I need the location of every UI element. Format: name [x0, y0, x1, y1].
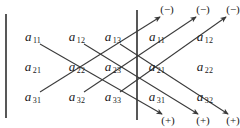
matrix-entry-32: a32 [69, 90, 85, 105]
entry-subscript: 33 [111, 97, 121, 106]
repeated-entry-21: a21 [149, 60, 165, 75]
negative-sign-1: (−) [160, 4, 174, 15]
entry-subscript: 13 [111, 37, 121, 46]
entry-subscript: 12 [203, 37, 213, 46]
entry-subscript: 11 [155, 37, 165, 46]
matrix-entry-22: a22 [69, 60, 85, 75]
matrix-entry-23: a23 [105, 60, 121, 75]
entry-subscript: 12 [75, 37, 85, 46]
matrix-entry-13: a13 [105, 30, 121, 45]
matrix-entry-31: a31 [25, 90, 41, 105]
entry-symbol: a [25, 89, 32, 104]
entry-subscript: 22 [203, 67, 213, 76]
negative-diagonal-lines [40, 17, 226, 92]
entry-symbol: a [69, 59, 76, 74]
entry-symbol: a [105, 59, 112, 74]
entry-subscript: 32 [75, 97, 85, 106]
entry-symbol: a [69, 89, 76, 104]
entry-subscript: 21 [31, 67, 41, 76]
entry-symbol: a [197, 29, 204, 44]
entry-symbol: a [105, 29, 112, 44]
entry-subscript: 11 [31, 37, 41, 46]
entry-symbol: a [105, 89, 112, 104]
matrix-entry-33: a33 [105, 90, 121, 105]
entry-subscript: 21 [155, 67, 165, 76]
entry-symbol: a [69, 29, 76, 44]
matrix-entry-21: a21 [25, 60, 41, 75]
repeated-entry-11: a11 [149, 30, 165, 45]
repeated-entry-32: a32 [197, 90, 213, 105]
repeated-entry-22: a22 [197, 60, 213, 75]
negative-sign-3: (−) [226, 4, 240, 15]
negative-sign-2: (−) [196, 4, 210, 15]
entry-subscript: 22 [75, 67, 85, 76]
entry-symbol: a [197, 89, 204, 104]
matrix-entry-11: a11 [25, 30, 41, 45]
entry-symbol: a [149, 59, 156, 74]
entry-subscript: 31 [31, 97, 41, 106]
repeated-entry-12: a12 [197, 30, 213, 45]
entry-symbol: a [25, 59, 32, 74]
entry-subscript: 23 [111, 67, 121, 76]
positive-sign-1: (+) [161, 115, 175, 126]
entry-symbol: a [197, 59, 204, 74]
entry-symbol: a [149, 89, 156, 104]
matrix-entry-12: a12 [69, 30, 85, 45]
entry-subscript: 32 [203, 97, 213, 106]
entry-subscript: 31 [155, 97, 165, 106]
entry-symbol: a [149, 29, 156, 44]
entry-symbol: a [25, 29, 32, 44]
sarrus-rule-figure: a11a12a13a21a22a23a31a32a33 a11a12a21a22… [0, 0, 240, 128]
positive-sign-3: (+) [226, 115, 240, 126]
repeated-entry-31: a31 [149, 90, 165, 105]
positive-sign-2: (+) [196, 115, 210, 126]
